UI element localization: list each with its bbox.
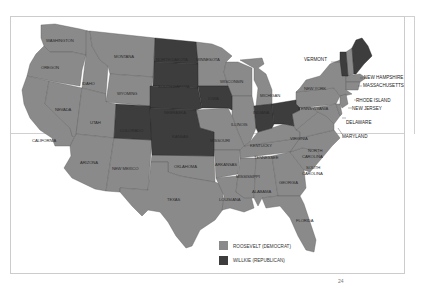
label-minnesota: MINNESOTA [196, 57, 220, 62]
label-arkansas: ARKANSAS [215, 162, 237, 167]
label-rhode-island: RHODE ISLAND [356, 98, 391, 103]
label-arizona: ARIZONA [80, 160, 98, 165]
label-mississippi: MISSISSIPPI [236, 174, 260, 179]
label-idaho: IDAHO [82, 81, 96, 86]
label-iowa: IOWA [208, 96, 219, 101]
label-montana: MONTANA [114, 54, 134, 59]
label-illinois: ILLINOIS [231, 122, 248, 127]
label-massachusetts: MASSACHUSETTS [363, 83, 404, 88]
label-missouri: MISSOURI [210, 138, 230, 143]
label-california: CALIFORNIA [32, 138, 56, 143]
legend-label-willkie: WILLKIE (REPUBLICAN) [233, 258, 285, 263]
label-pennsylvania: PENNSYLVANIA [298, 106, 329, 111]
label-colorado: COLORADO [120, 128, 144, 133]
state-colorado [114, 104, 152, 140]
label-new-hampshire: NEW HAMPSHIRE [364, 75, 403, 80]
legend: ROOSEVELT (DEMOCRAT) WILLKIE (REPUBLICAN… [219, 241, 291, 265]
label-oregon: OREGON [41, 65, 59, 70]
label-new-jersey: NEW JERSEY [352, 106, 382, 111]
label-new-york: NEW YORK [304, 86, 326, 91]
election-map: WASHINGTON OREGON CALIFORNIA NEVADA IDAH… [0, 0, 425, 288]
label-texas: TEXAS [167, 197, 181, 202]
label-south-dakota: SOUTH DAKOTA [158, 84, 190, 89]
state-new-mexico [106, 138, 152, 192]
label-wyoming: WYOMING [117, 91, 137, 96]
label-indiana: INDIANA [253, 110, 270, 115]
label-georgia: GEORGIA [279, 180, 298, 185]
state-connecticut-ri [346, 82, 360, 90]
legend-swatch-roosevelt [219, 241, 228, 250]
state-new-jersey [340, 94, 348, 108]
legend-label-roosevelt: ROOSEVELT (DEMOCRAT) [233, 244, 291, 249]
page-number: 24 [338, 278, 344, 284]
label-vermont: VERMONT [304, 57, 327, 62]
legend-swatch-willkie [219, 256, 228, 265]
label-maryland: MARYLAND [342, 134, 368, 139]
label-tennessee: TENNESSEE [254, 155, 279, 160]
label-wisconsin: WISCONSIN [220, 79, 243, 84]
label-kansas: KANSAS [172, 134, 189, 139]
state-indiana [254, 104, 274, 132]
state-nebraska [150, 86, 202, 110]
label-delaware: DELAWARE [346, 120, 371, 125]
label-washington: WASHINGTON [46, 38, 74, 43]
label-north-carolina-2: CAROLINA [302, 154, 323, 159]
label-oklahoma: OKLAHOMA [174, 164, 197, 169]
label-new-mexico: NEW MEXICO [112, 166, 139, 171]
label-kentucky: KENTUCKY [250, 143, 272, 148]
label-utah: UTAH [90, 120, 101, 125]
label-michigan: MICHIGAN [260, 93, 280, 98]
label-louisiana: LOUISIANA [219, 197, 241, 202]
label-virginia: VIRGINIA [290, 136, 308, 141]
label-north-carolina-1: NORTH [308, 148, 322, 153]
label-nevada: NEVADA [55, 107, 72, 112]
label-south-carolina-1: SOUTH [306, 165, 320, 170]
label-north-dakota: NORTH DAKOTA [156, 57, 188, 62]
state-wyoming [106, 74, 153, 106]
label-nebraska: NEBRASKA [164, 110, 186, 115]
label-alabama: ALABAMA [252, 189, 271, 194]
state-maine [352, 38, 372, 74]
label-south-carolina-2: CAROLINA [302, 171, 323, 176]
label-florida: FLORIDA [296, 218, 314, 223]
